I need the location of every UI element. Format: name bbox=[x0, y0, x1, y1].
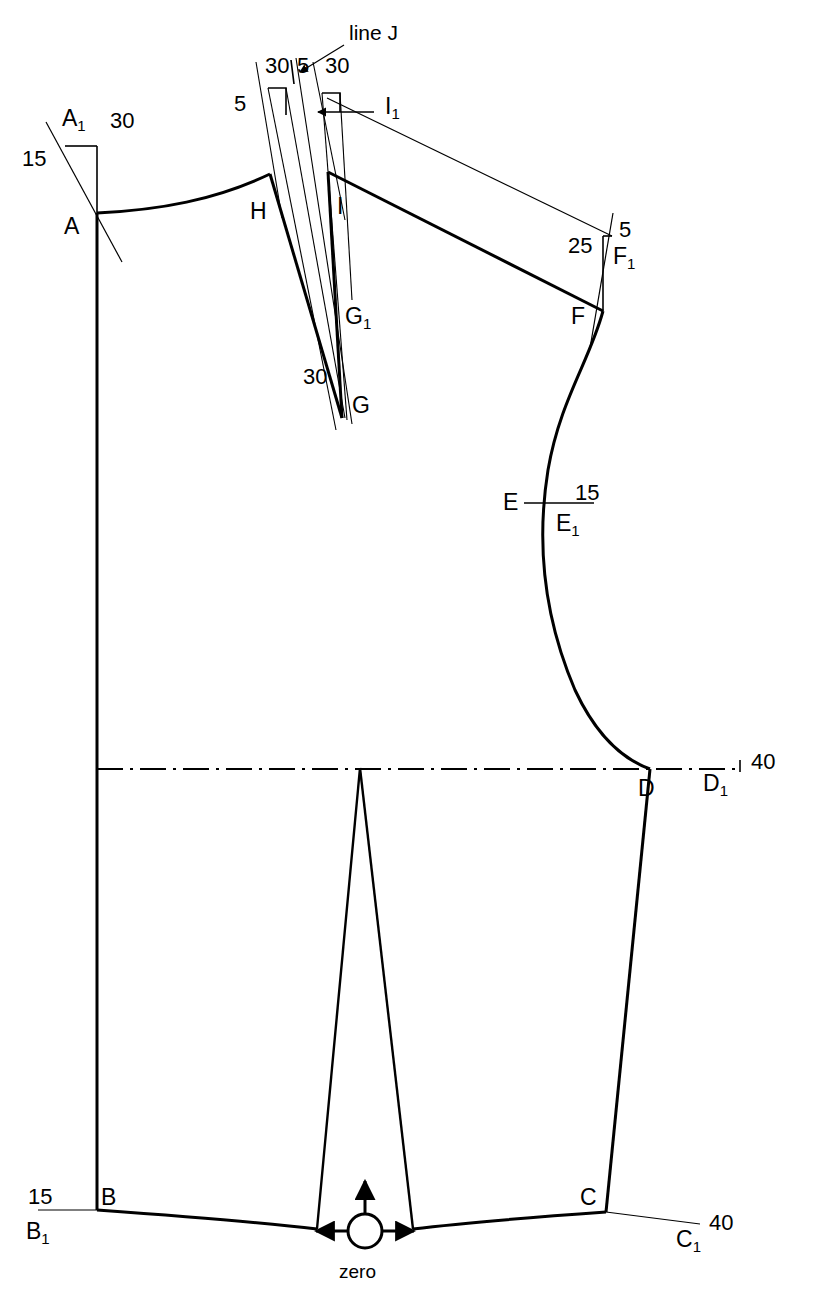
dimension-i-left: 5 bbox=[297, 55, 309, 77]
dimension-f-left: 25 bbox=[568, 235, 592, 257]
point-label-f1: F1 bbox=[613, 245, 635, 268]
point-label-h: H bbox=[250, 200, 267, 223]
dimension-i-right: 30 bbox=[325, 55, 349, 77]
construction-line-a bbox=[46, 122, 122, 262]
dimension-h-left: 5 bbox=[234, 93, 246, 115]
point-label-f: F bbox=[571, 305, 585, 328]
waist-dart-leg-left bbox=[317, 768, 360, 1229]
side-seam-dc bbox=[606, 769, 650, 1212]
point-label-e1: E1 bbox=[556, 512, 580, 535]
point-label-i1: I1 bbox=[385, 95, 400, 118]
dimension-d1: 40 bbox=[751, 751, 775, 773]
pattern-draft-svg bbox=[0, 0, 819, 1307]
armhole-side-seam bbox=[543, 311, 650, 769]
shoulder-line-if bbox=[328, 172, 603, 311]
baseline-extension-c1 bbox=[606, 1212, 700, 1224]
dimension-g-offset: 30 bbox=[303, 366, 327, 388]
dimension-b1: 15 bbox=[28, 1186, 52, 1208]
origin-circle bbox=[348, 1214, 382, 1248]
annotation-line-j: line J bbox=[349, 22, 398, 43]
point-label-c: C bbox=[580, 1186, 597, 1209]
point-label-a: A bbox=[64, 215, 79, 238]
point-label-i: I bbox=[337, 195, 343, 218]
point-label-d1: D1 bbox=[703, 772, 728, 795]
point-label-g: G bbox=[352, 394, 370, 417]
point-label-a1: A1 bbox=[62, 107, 86, 130]
dimension-a1-right: 30 bbox=[110, 110, 134, 132]
dimension-a1-left: 15 bbox=[22, 148, 46, 170]
point-label-e: E bbox=[503, 491, 518, 514]
construction-line-f bbox=[590, 213, 613, 348]
point-label-b: B bbox=[101, 1186, 116, 1209]
origin-label: zero bbox=[339, 1262, 376, 1281]
dimension-e: 15 bbox=[575, 482, 599, 504]
point-label-d: D bbox=[638, 777, 655, 800]
point-label-c1: C1 bbox=[676, 1228, 701, 1251]
waist-dart-leg-right bbox=[360, 768, 413, 1229]
dimension-f-right: 5 bbox=[619, 219, 631, 241]
dimension-h-right: 30 bbox=[265, 55, 289, 77]
tick-line-j bbox=[291, 60, 294, 84]
hem-right bbox=[413, 1212, 606, 1229]
point-label-g1: G1 bbox=[345, 305, 371, 328]
hem-left bbox=[97, 1210, 317, 1229]
diagram-canvas: A1 30 15 A line J 5 30 H 5 30 I I1 G1 30… bbox=[0, 0, 819, 1307]
shoulder-line-i1f1 bbox=[327, 98, 612, 236]
neckline-curve bbox=[97, 174, 270, 213]
point-label-b1: B1 bbox=[26, 1220, 50, 1243]
dimension-c1: 40 bbox=[709, 1212, 733, 1234]
